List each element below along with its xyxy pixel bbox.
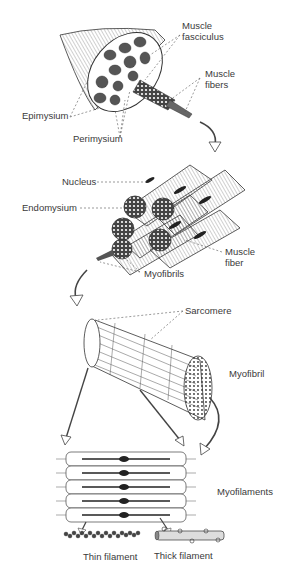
myofilaments-illustration	[56, 452, 224, 543]
label-thick-filament: Thick filament	[154, 550, 213, 561]
label-myofilaments: Myofilaments	[217, 486, 273, 497]
label-myofibril: Myofibril	[229, 368, 264, 379]
label-nucleus: Nucleus	[62, 176, 96, 187]
label-sarcomere: Sarcomere	[185, 305, 231, 316]
label-line: fibers	[205, 79, 235, 90]
label-line: fasciculus	[182, 31, 224, 42]
label-line: fiber	[225, 257, 255, 268]
label-line: Muscle	[225, 246, 255, 257]
label-line: Muscle	[205, 68, 235, 79]
label-epimysium: Epimysium	[22, 110, 68, 121]
label-endomysium: Endomysium	[22, 202, 77, 213]
label-myofibrils: Myofibrils	[144, 268, 184, 279]
label-perimysium: Perimysium	[73, 133, 123, 144]
label-muscle-fibers: Muscle fibers	[205, 68, 235, 90]
label-muscle-fiber: Muscle fiber	[225, 246, 255, 268]
thin-filament-shape	[64, 531, 140, 538]
myofibril-illustration	[61, 311, 219, 455]
label-line: Muscle	[182, 20, 224, 31]
muscle-structure-diagram	[0, 0, 283, 570]
label-muscle-fasciculus: Muscle fasciculus	[182, 20, 224, 42]
label-thin-filament: Thin filament	[83, 551, 137, 562]
